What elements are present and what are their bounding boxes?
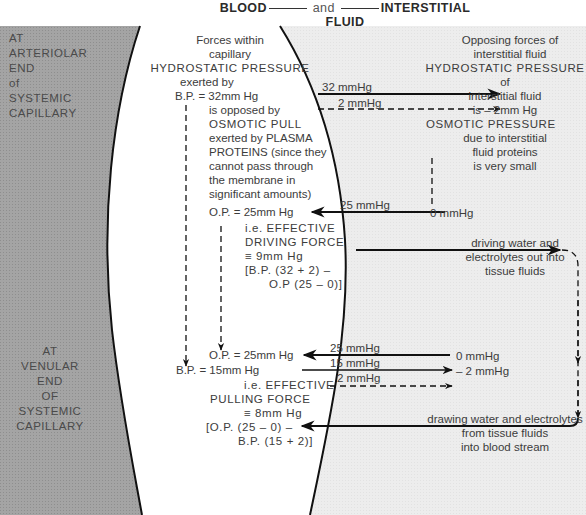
driving-force-block: i.e. EFFECTIVE DRIVING FORCE ≡ 9mm Hg [B… — [245, 221, 344, 291]
label-line: OF — [14, 389, 86, 404]
text-line: ≡ 9mm Hg — [245, 249, 344, 263]
text-line: is opposed by — [209, 103, 327, 117]
text-line: PROTEINS (since they — [209, 145, 327, 159]
label-line: AT — [9, 31, 87, 46]
arteriolar-end-label: AT ARTERIOLAR END of SYSTEMIC CAPILLARY — [9, 31, 87, 121]
capillary-exchange-diagram: BLOOD and INTERSTITIAL FLUID AT ARTERIOL… — [0, 0, 586, 515]
label-line: AT — [14, 344, 86, 359]
label-line: of — [9, 76, 87, 91]
label-v2mmhg: 2 mmHg — [337, 371, 380, 385]
text-line: ≡ 8mm Hg — [210, 406, 334, 420]
interstitial-title: Opposing forces of interstitial fluid — [425, 33, 586, 61]
text-line: [O.P. (25 – 0) – — [206, 420, 334, 434]
interstitial-op-block: due to interstitial fluid proteins is ve… — [420, 131, 586, 173]
text-line: B.P. (15 + 2)] — [210, 434, 334, 448]
text-line: DRIVING FORCE — [245, 235, 344, 249]
text-line: OSMOTIC PULL — [209, 117, 327, 131]
op-venular: O.P. = 25mm Hg — [209, 348, 293, 362]
zero-mmhg-arterial: 0 mmHg — [430, 206, 473, 220]
text-line: exerted by PLASMA — [209, 131, 327, 145]
text-line: cannot pass through — [209, 159, 327, 173]
pulling-force-block: i.e. EFFECTIVE PULLING FORCE ≡ 8mm Hg [O… — [210, 378, 334, 448]
header-interstitial: INTERSTITIAL FLUID — [326, 1, 471, 29]
exerted-by: exerted by — [180, 75, 234, 89]
label-line: CAPILLARY — [9, 106, 87, 121]
text-line: the membrane in — [209, 173, 327, 187]
text-line: driving water and — [440, 236, 586, 250]
label-25mmhg: 25 mmHg — [340, 198, 390, 212]
header-blood: BLOOD — [220, 1, 267, 15]
text-line: PULLING FORCE — [210, 392, 334, 406]
diagram-header: BLOOD and INTERSTITIAL FLUID — [200, 1, 490, 29]
text-line: fluid proteins — [420, 145, 586, 159]
text-line: electrolytes out into — [440, 250, 586, 264]
text-line: significant amounts) — [209, 187, 327, 201]
text-line: O.P (25 – 0)] — [245, 277, 344, 291]
bp-venular: B.P. = 15mm Hg — [176, 363, 259, 377]
text-line: drawing water and electrolytes — [420, 412, 586, 426]
header-and: and — [313, 1, 335, 15]
label-2mmhg: 2 mmHg — [338, 96, 381, 110]
text-line: from tissue fluids — [420, 426, 586, 440]
label-line: END — [14, 374, 86, 389]
capillary-hp-title: HYDROSTATIC PRESSURE — [145, 61, 315, 75]
label-line: SYSTEMIC — [9, 91, 87, 106]
label-line: END — [9, 61, 87, 76]
label-line: CAPILLARY — [14, 419, 86, 434]
text-line: into blood stream — [420, 440, 586, 454]
capillary-title: Forces within capillary — [155, 33, 305, 61]
label-v25mmhg: 25 mmHg — [330, 341, 380, 355]
label-v15mmhg: 15 mmHg — [330, 356, 380, 370]
text-line: i.e. EFFECTIVE — [245, 221, 344, 235]
interstitial-of: of — [420, 75, 586, 89]
text-line: [B.P. (32 + 2) – — [245, 263, 344, 277]
interstitial-hp-value: is – 2mm Hg — [420, 103, 586, 117]
text-line: tissue fluids — [440, 264, 586, 278]
venular-end-label: AT VENULAR END OF SYSTEMIC CAPILLARY — [14, 344, 86, 434]
title-line: Forces within — [155, 33, 305, 47]
title-line: Opposing forces of — [425, 33, 586, 47]
text-line: due to interstitial — [420, 131, 586, 145]
zero-mmhg-venular: 0 mmHg — [456, 349, 499, 363]
bp-arterial: B.P. = 32mm Hg — [175, 89, 258, 103]
title-line: interstitial fluid — [425, 47, 586, 61]
label-line: ARTERIOLAR — [9, 46, 87, 61]
interstitial-fluid-line: interstitial fluid — [420, 89, 586, 103]
op-arterial: O.P. = 25mm Hg — [209, 205, 293, 219]
title-line: capillary — [155, 47, 305, 61]
drawing-in-text: drawing water and electrolytes from tiss… — [420, 412, 586, 454]
label-line: VENULAR — [14, 359, 86, 374]
interstitial-op-title: OSMOTIC PRESSURE — [426, 117, 556, 131]
text-line: i.e. EFFECTIVE — [210, 378, 334, 392]
text-line: is very small — [420, 159, 586, 173]
driving-out-text: driving water and electrolytes out into … — [440, 236, 586, 278]
opposed-block: is opposed by OSMOTIC PULL exerted by PL… — [209, 103, 327, 201]
label-line: SYSTEMIC — [14, 404, 86, 419]
label-32mmhg: 32 mmHg — [322, 80, 372, 94]
neg2-mmhg-venular: – 2 mmHg — [456, 364, 509, 378]
interstitial-hp-title: HYDROSTATIC PRESSURE — [420, 61, 586, 75]
